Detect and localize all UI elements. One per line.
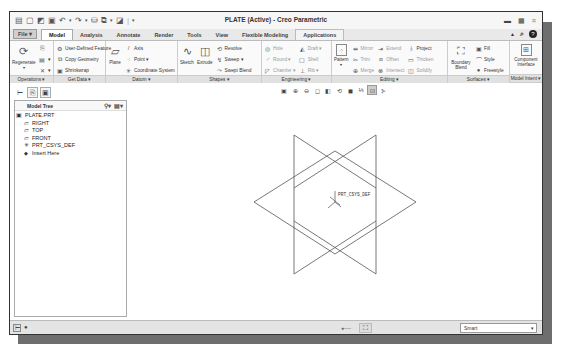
paste-icon: ▤ [39,56,46,63]
quick-access-toolbar: ▤ ▢ ◩ ▣ ↶ ▾ ↷ ▾ ⛁ ⧉ ▾ ◪ | ▾ [10,17,135,25]
group-label-model-intent[interactable]: Model Intent ▾ [510,74,542,82]
regenerate-dropdown-icon[interactable]: ▾ [23,65,25,70]
tree-item-top[interactable]: ▱TOP [15,127,126,135]
group-label-get-data[interactable]: Get Data ▾ [54,75,105,83]
draft-button[interactable]: ◭Draft ▾ [299,43,323,53]
hole-button[interactable]: ◎Hole [264,43,296,53]
undo-icon[interactable]: ↶ [59,17,66,25]
help-icon[interactable]: ? [529,30,537,38]
rib-button[interactable]: ⊥Rib ▾ [299,65,323,75]
redo-dropdown-icon[interactable]: ▾ [85,18,88,23]
graphics-window[interactable]: ▣ ⊕ ⊖ ◻ ◧ ⟲ ◼ ⅓ ⊡ ⊱ [132,84,542,320]
folder-browser-tab[interactable]: ⎘ [27,87,38,98]
search-icon[interactable]: ⌕ [520,30,524,38]
project-button[interactable]: ⤓Project [408,43,434,53]
close-icon[interactable]: ⌗ [532,17,536,25]
style-button[interactable]: ⌒Style [475,54,504,64]
round-button[interactable]: ◜Round ▾ [264,54,296,64]
group-label-engineering[interactable]: Engineering ▾ [262,75,331,83]
redo-icon[interactable]: ↷ [75,17,82,25]
favorites-tab[interactable]: ▣ [40,87,51,98]
tree-item-plate-prt[interactable]: ▣PLATE.PRT [15,112,126,120]
tab-flexible-modeling[interactable]: Flexible Modeling [235,30,295,40]
coordinate-system-button[interactable]: ✳Coordinate System [125,65,175,75]
tab-analysis[interactable]: Analysis [73,30,110,40]
tree-item-prt-csys-def[interactable]: ✳PRT_CSYS_DEF [15,142,126,150]
merge-button[interactable]: ⊕Merge [352,65,375,75]
paste-button[interactable]: ▤▾ [39,54,51,64]
extend-button[interactable]: ⇥Extend [377,43,404,53]
save-icon[interactable]: ▣ [48,17,56,25]
minimize-ribbon-icon[interactable]: ▲ [510,31,515,37]
tree-item-front[interactable]: ▱FRONT [15,135,126,143]
thicken-button[interactable]: ▭Thicken [408,54,434,64]
csys-icon: ✳ [22,142,30,150]
windows-dropdown-icon[interactable]: ▾ [110,18,113,23]
model-tree-tab[interactable]: ⊢ [14,87,25,98]
regenerate-button[interactable]: ⟳ Regenerate ▾ [12,43,36,75]
tab-render[interactable]: Render [147,30,180,40]
point-button[interactable]: ⁖Point ▾ [125,54,175,64]
copy-geometry-button[interactable]: ⧉Copy Geometry [56,54,111,64]
message-log-icon[interactable]: ● [24,324,28,332]
pattern-dropdown-icon[interactable]: ▾ [340,62,342,67]
tree-item-insert-here[interactable]: ◆Insert Here [15,150,126,158]
group-label-operations[interactable]: Operations ▾ [10,75,53,83]
tab-model[interactable]: Model [41,29,73,40]
tree-show-icon[interactable]: ▤▾ [114,102,123,109]
group-label-surfaces[interactable]: Surfaces ▾ [448,75,509,83]
new-icon[interactable]: ▤ [15,17,23,25]
mirror-button[interactable]: ⇹Mirror [352,43,375,53]
axis-button[interactable]: /Axis [125,43,175,53]
open-folder-icon[interactable]: ◩ [37,17,45,25]
extrude-button[interactable]: ◫ Extrude [197,43,213,75]
trim-button[interactable]: ✂Trim [352,54,375,64]
group-label-editing[interactable]: Editing ▾ [332,75,447,83]
csys-label[interactable]: PRT_CSYS_DEF [338,192,371,197]
tab-tools[interactable]: Tools [180,30,208,40]
component-interface-button[interactable]: ⊞ Component Interface [512,43,540,74]
boundary-blend-button[interactable]: ⛶ Boundary Blend [450,43,472,75]
freestyle-button[interactable]: ●Freestyle [475,65,504,75]
delete-icon: ✕ [39,67,46,74]
offset-button[interactable]: ⧈Offset [377,54,404,64]
group-label-shapes[interactable]: Shapes ▾ [178,75,261,83]
tab-view[interactable]: View [209,30,235,40]
tree-item-right[interactable]: ▱RIGHT [15,120,126,128]
tree-settings-icon[interactable]: ⚲▾ [104,102,111,109]
fill-button[interactable]: ▣Fill [475,43,504,53]
show-navigator-icon[interactable]: ⊢ [13,324,21,332]
delete-button[interactable]: ✕▾ [39,65,51,75]
plane-button[interactable]: ▱ Plane [108,43,122,75]
selection-filter-dropdown[interactable]: Smart ▾ [460,323,537,333]
chamfer-button[interactable]: ◸Chamfer ▾ [264,65,296,75]
regen-status-icon[interactable]: ●── [341,325,351,331]
windows-icon[interactable]: ⧉ [101,17,107,25]
tab-applications[interactable]: Applications [295,29,344,40]
tab-annotate[interactable]: Annotate [110,30,148,40]
tab-file[interactable]: File ▾ [13,29,37,39]
sketch-button[interactable]: ∿ Sketch [180,43,194,75]
group-label-datum[interactable]: Datum ▾ [106,75,177,83]
intersect-button[interactable]: ⊗Intersect [377,65,404,75]
customize-qat-icon[interactable]: ▾ [132,18,135,23]
user-defined-feature-button[interactable]: ⚙User-Defined Feature [56,43,111,53]
solidify-button[interactable]: ◫Solidify [408,65,434,75]
close-window-icon[interactable]: ◪ [116,17,124,25]
regenerate-icon[interactable]: ⛁ [91,17,98,25]
open-icon[interactable]: ▢ [26,17,34,25]
sweep-button[interactable]: ↯Sweep ▾ [216,54,252,64]
minimize-icon[interactable]: ▬ [504,17,511,25]
swept-blend-button[interactable]: ⤳Swept Blend [216,65,252,75]
pattern-button[interactable]: ⁘ Pattern ▾ [334,43,349,75]
group-model-intent: ⊞ Component Interface Model Intent ▾ [510,41,542,82]
undo-dropdown-icon[interactable]: ▾ [69,18,72,23]
trim-icon: ✂ [352,56,359,63]
maximize-icon[interactable]: ▦ [518,17,525,25]
find-icon[interactable]: ⛶ [359,323,372,333]
revolve-button[interactable]: ⟲Revolve [216,43,252,53]
shrinkwrap-button[interactable]: ▣Shrinkwrap [56,65,111,75]
shell-button[interactable]: ▢Shell [299,54,323,64]
copy-button[interactable]: ⎘ [39,43,51,53]
style-icon: ⌒ [475,55,482,64]
